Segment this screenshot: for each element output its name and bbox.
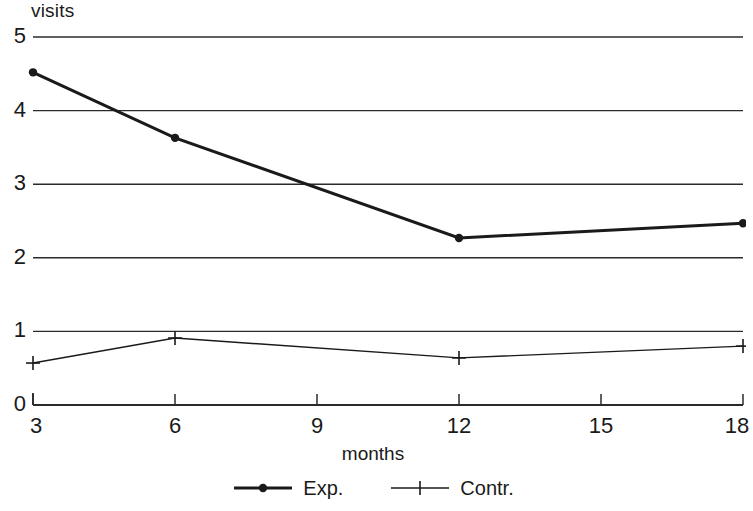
data-point-marker xyxy=(171,134,179,142)
gridlines xyxy=(33,37,743,331)
data-point-marker xyxy=(739,219,746,227)
legend-label: Exp. xyxy=(303,478,343,498)
x-axis-ticks xyxy=(33,394,743,405)
data-point-marker xyxy=(455,234,463,242)
legend-entry[interactable]: Contr. xyxy=(389,478,513,498)
chart-legend: Exp.Contr. xyxy=(0,478,746,498)
series-line xyxy=(33,338,743,363)
data-series-layer xyxy=(26,68,746,370)
data-series xyxy=(26,331,746,370)
legend-circle-marker-icon xyxy=(232,478,294,498)
x-axis-title: months xyxy=(0,443,746,465)
legend-plus-marker-icon xyxy=(389,478,451,498)
legend-entry[interactable]: Exp. xyxy=(232,478,343,498)
legend-label: Contr. xyxy=(460,478,513,498)
data-series xyxy=(29,68,746,242)
axis-lines xyxy=(33,393,743,405)
data-point-marker xyxy=(29,68,37,76)
series-line xyxy=(33,72,743,238)
